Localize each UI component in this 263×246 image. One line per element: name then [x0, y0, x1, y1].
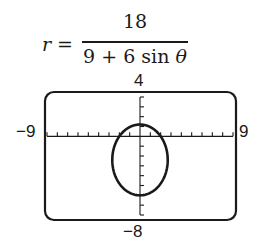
- axes: [47, 97, 233, 215]
- xmin-label: −9: [16, 122, 35, 142]
- ymax-label: 4: [134, 71, 143, 91]
- xmax-label: 9: [239, 122, 248, 142]
- ymin-label: −8: [123, 222, 142, 242]
- graph-screen: [0, 0, 263, 246]
